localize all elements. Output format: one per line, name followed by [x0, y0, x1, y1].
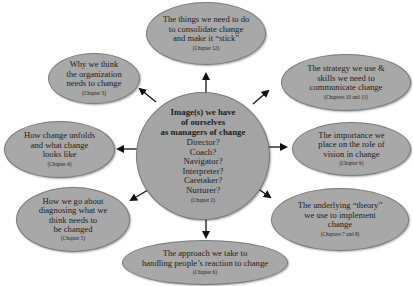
- chapter-label: (Chapters 10 and 11): [324, 94, 367, 101]
- node-text: How we go about diagnosing what we think…: [39, 197, 108, 235]
- node-strategy: The strategy we use & skills we need to …: [281, 54, 411, 111]
- chapter-label: (Chapters 7 and 8): [321, 231, 359, 238]
- chapter-label: (Chapter 5): [61, 235, 85, 242]
- central-title: Image(s) we have of ourselves as manager…: [161, 108, 246, 137]
- node-text: The strategy we use & skills we need to …: [307, 64, 384, 92]
- arrow-to-strategy: [253, 91, 268, 104]
- role-nurturer: Nurturer?: [182, 186, 223, 196]
- node-theory: The underlying “theory” we use to implem…: [271, 188, 409, 251]
- node-text: The things we need to do to consolidate …: [163, 15, 250, 43]
- arrow-to-why-change: [140, 89, 156, 102]
- node-change-unfolds: How change unfolds and what change looks…: [4, 121, 115, 178]
- chapter-label: (Chapter 4): [48, 161, 72, 168]
- node-diagnosing: How we go about diagnosing what we think…: [16, 187, 130, 252]
- node-consolidate-change: The things we need to do to consolidate …: [146, 2, 266, 65]
- node-people-reaction: The approach we take to handling people’…: [122, 240, 288, 285]
- chapter-label: (Chapter 2): [191, 197, 215, 204]
- role-list: Director? Coach? Navigator? Interpreter?…: [182, 138, 223, 196]
- node-text: The approach we take to handling people’…: [142, 249, 268, 268]
- central-node-self-image: Image(s) we have of ourselves as manager…: [136, 92, 270, 220]
- node-why-change: Why we think the organization needs to c…: [48, 53, 140, 104]
- arrow-to-diagnosing: [131, 190, 148, 200]
- chapter-label: (Chapter 9): [340, 160, 364, 167]
- chapter-label: (Chapter 6): [193, 269, 217, 276]
- node-text: The underlying “theory” we use to implem…: [298, 201, 382, 229]
- node-text: The importance we place on the role of v…: [318, 131, 384, 159]
- node-vision: The importance we place on the role of v…: [292, 122, 411, 176]
- chapter-label: (Chapter 3): [82, 90, 106, 97]
- chapter-label: (Chapter 12): [193, 45, 219, 52]
- node-text: How change unfolds and what change looks…: [24, 131, 95, 159]
- node-text: Why we think the organization needs to c…: [66, 60, 121, 88]
